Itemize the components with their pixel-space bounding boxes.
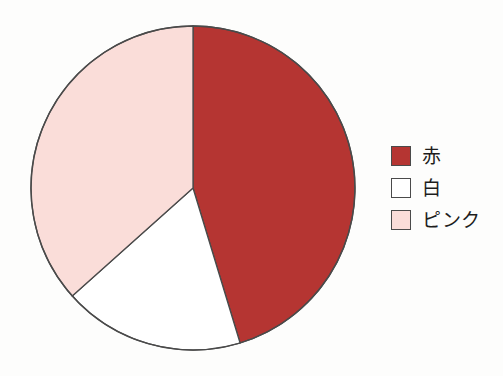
- pie-chart-figure: 赤 白 ピンク: [0, 0, 503, 376]
- pie-slice-group: [31, 26, 355, 350]
- legend-swatch-red-icon: [391, 146, 411, 166]
- legend-swatch-white-icon: [391, 178, 411, 198]
- legend-item-pink[interactable]: ピンク: [391, 204, 499, 236]
- legend-label-red: 赤: [422, 147, 442, 166]
- legend-item-white[interactable]: 白: [391, 172, 499, 204]
- legend-label-white: 白: [422, 179, 442, 198]
- chart-legend: 赤 白 ピンク: [391, 140, 499, 236]
- legend-swatch-pink-icon: [391, 210, 411, 230]
- legend-label-pink: ピンク: [422, 211, 481, 230]
- legend-item-red[interactable]: 赤: [391, 140, 499, 172]
